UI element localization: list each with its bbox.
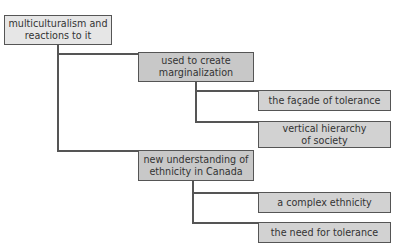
node-root-line1: multiculturalism and [9, 18, 108, 30]
node-leaf-facade-of-tolerance: the façade of tolerance [258, 90, 391, 111]
node-branch1-line1: used to create [159, 55, 233, 67]
node-leaf2-line1: vertical hierarchy [282, 123, 366, 135]
node-leaf2-line2: of society [282, 135, 366, 147]
node-root-line2: reactions to it [9, 30, 108, 42]
connector-branch1-leaf1 [195, 90, 259, 92]
node-root: multiculturalism and reactions to it [4, 15, 112, 45]
node-branch2-line1: new understanding of [144, 154, 249, 166]
node-leaf-vertical-hierarchy: vertical hierarchy of society [258, 121, 391, 148]
node-leaf3-line1: a complex ethnicity [277, 197, 372, 209]
connector-root-trunk [57, 44, 59, 151]
connector-branch2-leaf3 [192, 192, 259, 194]
node-branch2-line2: ethnicity in Canada [144, 166, 249, 178]
connector-branch1-trunk [195, 81, 197, 122]
node-leaf-need-for-tolerance: the need for tolerance [258, 222, 391, 243]
node-leaf-complex-ethnicity: a complex ethnicity [258, 192, 391, 213]
connector-branch2-trunk [192, 180, 194, 223]
connector-root-branch1 [57, 53, 139, 55]
node-branch-new-understanding: new understanding of ethnicity in Canada [138, 150, 254, 181]
node-branch-marginalization: used to create marginalization [138, 52, 254, 82]
connector-branch2-leaf4 [192, 222, 259, 224]
connector-root-branch2 [57, 150, 139, 152]
connector-branch1-leaf2 [195, 121, 259, 123]
node-leaf4-line1: the need for tolerance [271, 227, 378, 239]
node-branch1-line2: marginalization [159, 67, 233, 79]
node-leaf1-line1: the façade of tolerance [269, 95, 381, 107]
